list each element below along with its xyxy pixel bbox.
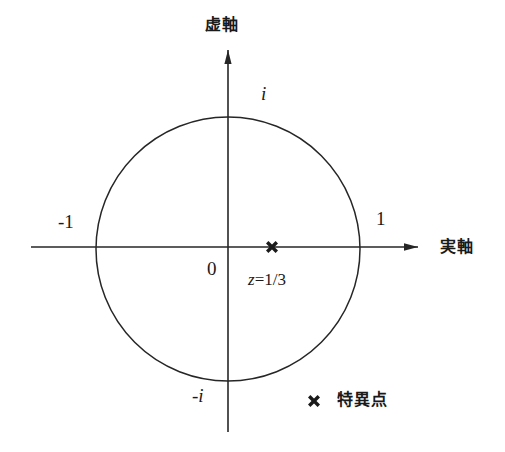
tick-label-negative-one: -1: [58, 212, 74, 231]
origin-label: 0: [207, 259, 217, 278]
singularity-variable: z: [248, 270, 255, 289]
imaginary-axis-arrowhead: [224, 50, 231, 64]
singularity-value: =1/3: [255, 270, 286, 289]
imaginary-axis-label: 虚軸: [205, 17, 239, 33]
singularity-point-label: z=1/3: [248, 271, 286, 288]
real-axis-label: 実軸: [440, 239, 474, 255]
tick-label-negative-i: -i: [192, 386, 204, 405]
tick-label-one: 1: [376, 209, 386, 228]
complex-plane-figure: [0, 0, 505, 452]
legend-marker-icon: [309, 396, 319, 406]
real-axis-arrowhead: [404, 243, 418, 251]
legend-label-singularity: 特異点: [337, 392, 388, 408]
tick-label-i: i: [261, 84, 266, 103]
